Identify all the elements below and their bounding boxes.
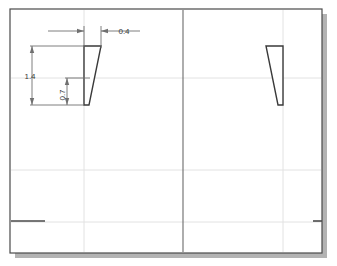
dimension-label-04: 0.4 — [118, 27, 130, 36]
drawing-canvas[interactable]: 0.4 1.4 0.7 — [0, 0, 337, 266]
technical-drawing-svg[interactable]: 0.4 1.4 0.7 — [0, 0, 337, 266]
dimension-label-07: 0.7 — [58, 89, 67, 101]
dimension-label-14: 1.4 — [24, 72, 36, 81]
